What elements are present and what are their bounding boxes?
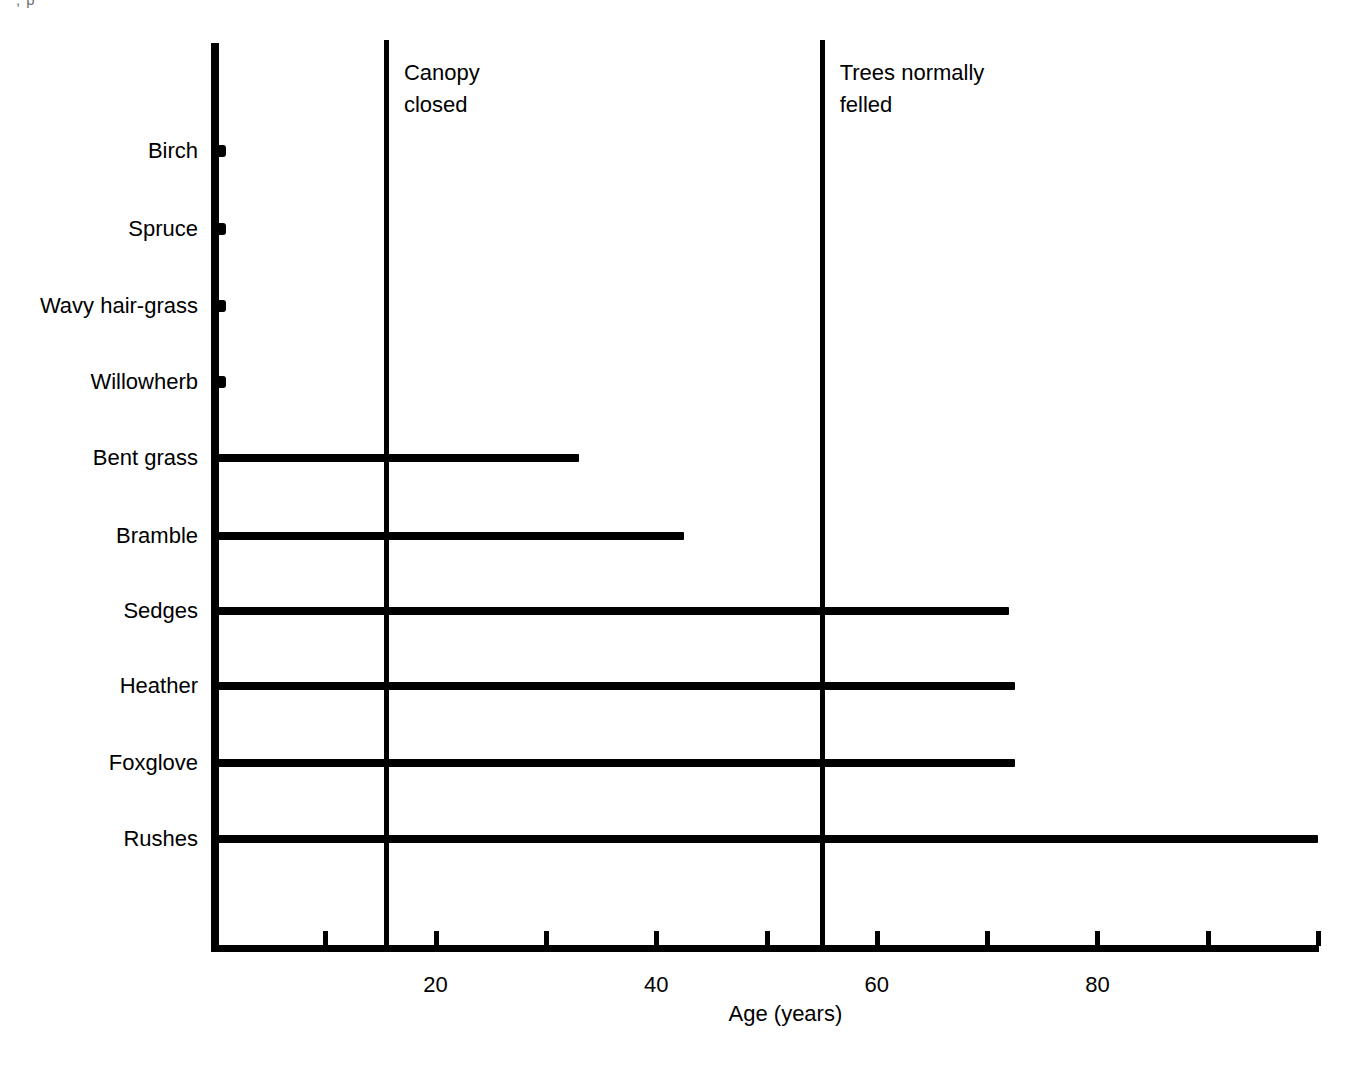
duration-bar (215, 607, 1009, 615)
x-tick-label: 40 (621, 972, 691, 998)
duration-bar (215, 759, 1015, 767)
duration-bar (215, 223, 226, 235)
x-minor-tick (544, 931, 549, 946)
category-label: Bramble (116, 523, 210, 549)
duration-bar (215, 300, 226, 312)
category-label: Spruce (128, 216, 210, 242)
x-major-tick (875, 931, 880, 946)
x-axis-line (211, 945, 1319, 952)
x-major-tick (654, 931, 659, 946)
x-axis-title: Age (years) (729, 1001, 843, 1027)
marker-label-trees-felled: Trees normally felled (840, 57, 985, 121)
duration-bar (215, 145, 226, 157)
category-label: Sedges (123, 598, 210, 624)
category-label: Birch (148, 138, 210, 164)
x-tick-label: 20 (401, 972, 471, 998)
duration-bar (215, 835, 1318, 843)
marker-line-canopy-closed (384, 40, 389, 950)
category-label: Bent grass (93, 445, 210, 471)
duration-bar (215, 454, 579, 462)
duration-bar (215, 682, 1015, 690)
duration-bar (215, 376, 226, 388)
x-major-tick (434, 931, 439, 946)
x-minor-tick (1206, 931, 1211, 946)
page-crumb-fragment: , p (16, 0, 36, 8)
category-label: Heather (120, 673, 210, 699)
species-duration-chart: , p 20406080 BirchSpruceWavy hair-grassW… (0, 0, 1347, 1065)
x-tick-label: 80 (1062, 972, 1132, 998)
x-minor-tick (765, 931, 770, 946)
y-axis-line (211, 43, 219, 951)
category-label: Wavy hair-grass (40, 293, 210, 319)
x-minor-tick (1316, 931, 1321, 946)
category-label: Willowherb (90, 369, 210, 395)
x-minor-tick (323, 931, 328, 946)
x-minor-tick (985, 931, 990, 946)
marker-label-canopy-closed: Canopy closed (404, 57, 480, 121)
category-label: Foxglove (109, 750, 210, 776)
marker-line-trees-felled (820, 40, 825, 950)
x-major-tick (1095, 931, 1100, 946)
duration-bar (215, 532, 684, 540)
category-label: Rushes (123, 826, 210, 852)
x-tick-label: 60 (842, 972, 912, 998)
